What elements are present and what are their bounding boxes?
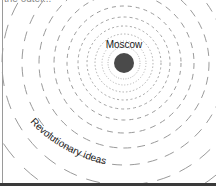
left-border	[2, 0, 3, 184]
revolutionary-ideas-label: Revolutionary ideas	[29, 116, 108, 167]
ripple-ring	[39, 0, 209, 148]
ripple-rings	[0, 0, 216, 186]
moscow-dot	[114, 53, 134, 73]
moscow-label: Moscow	[106, 39, 143, 50]
bottom-border	[0, 183, 216, 186]
concentric-ripple-diagram: Moscow Revolutionary ideas	[0, 0, 216, 186]
ripple-ring	[0, 0, 216, 186]
diagram-frame: the outer... Moscow Revolutionary ideas	[0, 0, 216, 186]
